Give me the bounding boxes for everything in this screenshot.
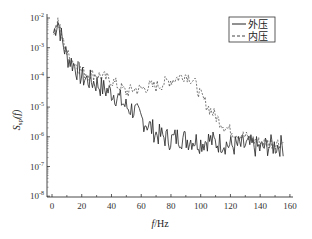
legend-label-outer: 外压 [248, 19, 268, 30]
y-tick-label: 10-3 [30, 42, 44, 53]
x-tick-label: 140 [253, 201, 267, 211]
legend: 外压 内压 [229, 17, 275, 42]
psd-chart: 02040608010012014016010-210-310-410-510-… [0, 0, 312, 239]
x-tick-label: 20 [77, 201, 87, 211]
y-tick-label: 10-4 [30, 71, 44, 82]
series-outer-pressure [54, 22, 284, 156]
y-tick-label: 10-8 [30, 190, 44, 201]
legend-label-inner: 内压 [248, 30, 268, 42]
x-tick-label: 160 [283, 201, 297, 211]
x-tick-label: 60 [137, 201, 147, 211]
y-tick-label: 10-6 [30, 131, 44, 142]
x-axis-title: f/Hz [151, 218, 169, 229]
x-tick-label: 0 [50, 201, 55, 211]
x-tick-label: 40 [107, 201, 117, 211]
y-tick-label: 10-7 [30, 161, 44, 172]
x-tick-label: 120 [224, 201, 238, 211]
y-tick-label: 10-2 [30, 12, 44, 23]
y-tick-label: 10-5 [30, 101, 44, 112]
y-axis-title: Ssp(f) [11, 109, 24, 130]
x-tick-label: 80 [166, 201, 176, 211]
x-tick-label: 100 [194, 201, 208, 211]
